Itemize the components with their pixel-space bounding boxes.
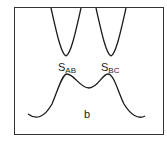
saddle-label-ab: SAB — [58, 61, 76, 75]
upper-curve-right — [96, 8, 126, 56]
panel-label: b — [84, 108, 90, 120]
saddle-label-bc: SBC — [101, 61, 120, 75]
upper-curve-left — [51, 8, 81, 56]
energy-diagram: SAB SBC b — [0, 0, 167, 144]
